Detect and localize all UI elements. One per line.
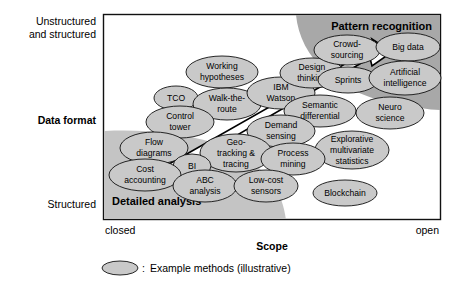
bubble-label: science <box>375 113 404 123</box>
bubble-label: Geo- <box>226 137 245 147</box>
bubble-label: Control <box>166 111 194 121</box>
bubble-label: Design <box>299 62 326 72</box>
bubble-label: sensing <box>266 131 296 141</box>
legend: : Example methods (illustrative) <box>102 261 291 275</box>
bubble-label: Cost <box>136 164 154 174</box>
bubble-label: Process <box>277 148 308 158</box>
bubble-working-hypotheses[interactable]: Working hypotheses <box>186 56 258 88</box>
bubble-label: Explorative <box>331 134 374 144</box>
bubble-label: IBM <box>273 82 288 92</box>
bubble-label: differential <box>300 111 340 121</box>
bubble-label: Walk-the- <box>209 93 246 103</box>
bubble-neuro-science[interactable]: Neuro science <box>356 97 424 129</box>
concept-diagram: Unstructured and structured Data format … <box>0 0 457 287</box>
bubble-artificial-intelligence[interactable]: Artificial intelligence <box>369 61 441 95</box>
bubble-label: sensors <box>251 186 281 196</box>
bubble-low-cost-sensors[interactable]: Low-cost sensors <box>234 170 298 202</box>
bubble-abc-analysis[interactable]: ABC analysis <box>173 170 237 202</box>
bubble-label: Flow <box>145 137 164 147</box>
bubble-label: tracing <box>223 159 249 169</box>
legend-separator: : <box>142 262 145 274</box>
bubble-label: Low-cost <box>249 175 284 185</box>
bubble-label: Crowd- <box>333 39 361 49</box>
x-axis-left-label: closed <box>105 224 136 236</box>
bubble-label: statistics <box>336 156 369 166</box>
bubble-label: route <box>217 104 237 114</box>
x-axis-right-label: open <box>416 224 440 236</box>
x-axis-title: Scope <box>256 240 288 252</box>
bubble-label: TCO <box>167 93 185 103</box>
bubble-label: ABC <box>196 175 214 185</box>
bubble-label: multivariate <box>330 145 374 155</box>
bubble-explorative-multivariate-statistics[interactable]: Explorative multivariate statistics <box>315 131 389 169</box>
legend-swatch-ellipse <box>102 261 138 275</box>
bubble-label: Big data <box>392 42 424 52</box>
bubble-label: accounting <box>124 175 166 185</box>
bubble-label: mining <box>280 159 306 169</box>
bubble-label: analysis <box>189 186 220 196</box>
bubble-label: Semantic <box>302 100 339 110</box>
bubble-label: Working <box>206 61 238 71</box>
bubble-label: diagrams <box>136 148 171 158</box>
y-axis-top-label: Unstructured and structured <box>29 15 96 40</box>
bubble-label: tracking & <box>217 148 255 158</box>
bubble-label: BI <box>188 161 196 171</box>
bubble-label: Blockchain <box>324 188 366 198</box>
bubble-label: Sprints <box>335 75 362 85</box>
bubble-label: Neuro <box>378 102 402 112</box>
y-axis-top-label-line1: Unstructured <box>36 15 96 27</box>
bubble-cost-accounting[interactable]: Cost accounting <box>109 159 181 191</box>
y-axis-bottom-label: Structured <box>48 198 97 210</box>
bubble-label: intelligence <box>384 78 427 88</box>
bubble-big-data[interactable]: Big data <box>376 33 440 61</box>
bubble-label: Artificial <box>390 67 420 77</box>
legend-text: Example methods (illustrative) <box>150 262 291 274</box>
bubble-label: tower <box>169 122 190 132</box>
bubble-label: sourcing <box>331 50 364 60</box>
bubble-label: hypotheses <box>200 72 244 82</box>
bubble-blockchain[interactable]: Blockchain <box>313 180 377 206</box>
zone-label-pattern-recognition: Pattern recognition <box>331 20 432 32</box>
y-axis-top-label-line2: and structured <box>29 28 96 40</box>
bubble-label: Demand <box>265 120 298 130</box>
bubble-crowd-sourcing[interactable]: Crowd- sourcing <box>314 35 380 65</box>
y-axis-title: Data format <box>38 114 97 126</box>
